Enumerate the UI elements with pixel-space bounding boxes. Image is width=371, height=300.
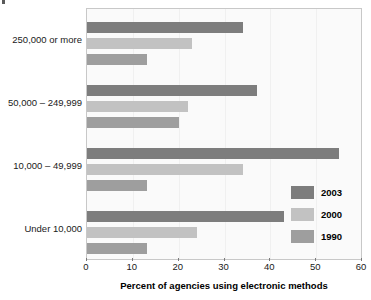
bar-1990-cat3 <box>87 243 147 254</box>
x-tick-0: 0 <box>83 261 88 272</box>
legend-swatch-2000 <box>291 208 314 221</box>
bar-group-1 <box>87 72 361 135</box>
tick-mark-50 <box>315 258 316 261</box>
legend-swatch-2003 <box>291 186 314 199</box>
bar-1990-cat2 <box>87 180 147 191</box>
category-label-0: 250,000 or more <box>0 34 82 45</box>
tick-mark-10 <box>132 258 133 261</box>
legend-label-1990: 1990 <box>321 231 342 242</box>
bar-2000-cat0 <box>87 38 192 49</box>
bar-2000-cat1 <box>87 101 188 112</box>
legend-label-2000: 2000 <box>321 209 342 220</box>
bar-2003-cat1 <box>87 85 257 96</box>
legend-swatch-1990 <box>291 230 314 243</box>
cropped-text-artifact <box>2 0 5 4</box>
tick-mark-60 <box>361 258 362 261</box>
tick-mark-40 <box>269 258 270 261</box>
x-tick-10: 10 <box>127 261 138 272</box>
legend: 2003 2000 1990 <box>291 184 359 250</box>
x-axis-ticks: 0 10 20 30 40 50 60 <box>86 261 362 277</box>
bar-chart: 250,000 or more 50,000 – 249,999 10,000 … <box>0 0 371 300</box>
tick-mark-20 <box>178 258 179 261</box>
bar-2003-cat0 <box>87 22 243 33</box>
category-label-2: 10,000 – 49,999 <box>0 160 82 171</box>
x-tick-50: 50 <box>310 261 321 272</box>
x-axis-title: Percent of agencies using electronic met… <box>86 280 362 291</box>
legend-item-2003[interactable]: 2003 <box>291 184 359 201</box>
bar-2003-cat2 <box>87 148 339 159</box>
legend-label-2003: 2003 <box>321 187 342 198</box>
category-label-3: Under 10,000 <box>0 223 82 234</box>
x-tick-20: 20 <box>172 261 183 272</box>
bar-2000-cat2 <box>87 164 243 175</box>
x-tick-60: 60 <box>356 261 367 272</box>
x-tick-30: 30 <box>218 261 229 272</box>
category-axis-labels: 250,000 or more 50,000 – 249,999 10,000 … <box>0 8 82 260</box>
legend-item-2000[interactable]: 2000 <box>291 206 359 223</box>
bar-2000-cat3 <box>87 227 197 238</box>
bar-2003-cat3 <box>87 211 284 222</box>
x-tick-40: 40 <box>264 261 275 272</box>
tick-mark-30 <box>224 258 225 261</box>
bar-1990-cat1 <box>87 117 179 128</box>
category-label-1: 50,000 – 249,999 <box>0 97 82 108</box>
legend-item-1990[interactable]: 1990 <box>291 228 359 245</box>
tick-mark-0 <box>86 258 87 261</box>
bar-1990-cat0 <box>87 54 147 65</box>
bar-group-0 <box>87 9 361 72</box>
